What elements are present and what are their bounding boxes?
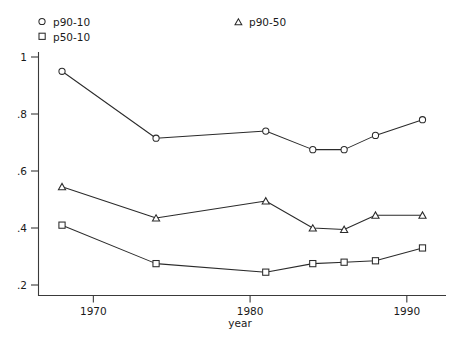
circle-marker-icon [419,117,425,123]
y-tick-label: .8 [17,108,27,120]
x-tick-label: 1990 [393,305,420,317]
x-tick-label: 1970 [80,305,107,317]
square-marker-icon [263,269,269,275]
triangle-marker-icon [58,183,65,189]
series-line-p90-10 [62,71,422,149]
y-tick-label: .6 [17,165,27,177]
square-marker-icon [59,222,65,228]
x-axis-ticks: 197019801990 [80,296,420,317]
circle-marker-icon [341,147,347,153]
data-series-layer [58,68,426,275]
y-tick-label: 1 [20,51,27,63]
series-p90-10 [59,68,426,153]
line-chart: p90-10 p50-10 p90-50 .2.4.6.81 197019801… [0,0,450,339]
circle-marker-icon [263,128,269,134]
y-tick-label: .2 [17,279,27,291]
legend-label-p50-10: p50-10 [53,31,90,43]
legend-label-p90-10: p90-10 [53,16,90,28]
square-marker-icon [419,245,425,251]
triangle-marker-icon [235,19,242,25]
legend-entry-p90-50: p90-50 [235,16,286,28]
square-marker-icon [153,261,159,267]
legend-label-p90-50: p90-50 [249,16,286,28]
square-marker-icon [310,261,316,267]
circle-marker-icon [372,132,378,138]
legend-entry-p90-10: p90-10 [39,16,90,28]
chart-legend: p90-10 p50-10 p90-50 [39,16,286,43]
series-p50-10 [59,222,426,275]
circle-marker-icon [153,135,159,141]
series-p90-50 [58,183,426,232]
circle-marker-icon [310,147,316,153]
axis-frame [39,52,447,296]
triangle-marker-icon [262,198,269,204]
circle-marker-icon [59,68,65,74]
x-axis-title: year [228,317,252,329]
square-marker-icon [39,33,45,39]
y-tick-label: .4 [17,222,27,234]
x-tick-label: 1980 [237,305,264,317]
series-line-p90-50 [62,187,422,230]
series-line-p50-10 [62,225,422,272]
square-marker-icon [372,258,378,264]
chart-container: p90-10 p50-10 p90-50 .2.4.6.81 197019801… [0,0,450,339]
circle-marker-icon [39,18,45,24]
y-axis-ticks: .2.4.6.81 [17,51,39,291]
square-marker-icon [341,259,347,265]
legend-entry-p50-10: p50-10 [39,31,90,43]
